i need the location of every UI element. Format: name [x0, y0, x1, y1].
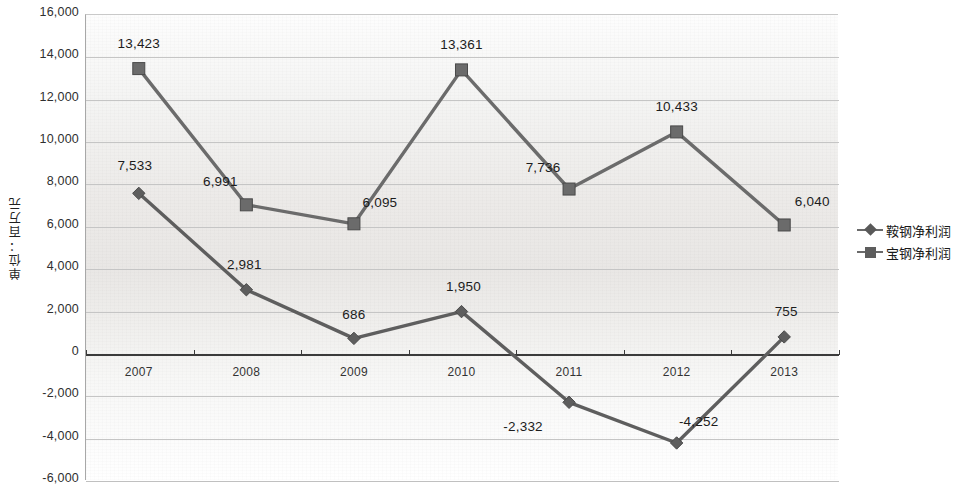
legend-label-series1: 鞍钢净利润 — [886, 221, 951, 240]
x-axis-tick-label: 2007 — [99, 365, 179, 379]
x-axis-tick — [731, 350, 732, 355]
gridline — [86, 184, 839, 185]
y-axis-tick-label: 16,000 — [7, 5, 79, 19]
y-axis-tick-label: 6,000 — [7, 217, 79, 231]
legend: 鞍钢净利润 宝钢净利润 — [857, 219, 960, 263]
x-axis-tick-label: 2008 — [206, 365, 286, 379]
y-axis-tick-label: 4,000 — [7, 259, 79, 273]
y-axis-tick-label: 0 — [7, 344, 79, 358]
square-marker-icon — [857, 245, 883, 259]
data-point-label: -4,252 — [679, 413, 718, 428]
data-point-label: 7,736 — [526, 160, 561, 175]
x-axis-tick-label: 2012 — [637, 365, 717, 379]
x-axis-tick-label: 2010 — [422, 365, 502, 379]
y-axis-tick-label: 10,000 — [7, 132, 79, 146]
gridline — [86, 100, 839, 101]
y-axis-tick-label: -4,000 — [7, 429, 79, 443]
data-point-label: -2,332 — [503, 419, 542, 434]
gridline — [86, 142, 839, 143]
y-axis-tick-label: 8,000 — [7, 174, 79, 188]
y-axis-tick-label: 12,000 — [7, 90, 79, 104]
data-point-label: 6,991 — [203, 173, 238, 188]
data-point-label: 2,981 — [227, 256, 262, 271]
gridline — [86, 57, 839, 58]
net-profit-line-chart: 单位：百万元 16,00014,00012,00010,0008,0006,00… — [0, 0, 960, 487]
data-point-label: 13,361 — [440, 36, 483, 51]
x-axis-tick-label: 2013 — [744, 365, 824, 379]
x-axis-tick-label: 2011 — [529, 365, 609, 379]
data-point-label: 10,433 — [655, 98, 698, 113]
gridline — [86, 269, 839, 270]
diamond-marker-icon — [857, 223, 883, 237]
y-axis-tick-label: -2,000 — [7, 386, 79, 400]
x-axis-tick — [409, 350, 410, 355]
legend-item-series1[interactable]: 鞍钢净利润 — [857, 219, 960, 241]
gridline — [86, 439, 839, 440]
x-axis-tick — [194, 350, 195, 355]
data-point-label: 755 — [775, 303, 798, 318]
data-point-label: 686 — [342, 307, 365, 322]
gridline — [86, 396, 839, 397]
plot-area — [85, 14, 838, 480]
y-axis-tick-label: 14,000 — [7, 47, 79, 61]
legend-label-series2: 宝钢净利润 — [886, 243, 951, 262]
legend-item-series2[interactable]: 宝钢净利润 — [857, 241, 960, 263]
x-axis-tick-label: 2009 — [314, 365, 394, 379]
data-point-label: 1,950 — [446, 278, 481, 293]
x-axis-tick — [624, 350, 625, 355]
y-axis-tick-label: -6,000 — [7, 471, 79, 485]
x-axis-tick — [301, 350, 302, 355]
plot-texture — [86, 15, 838, 480]
gridline — [86, 312, 839, 313]
data-point-label: 6,040 — [795, 193, 830, 208]
x-axis-tick — [86, 350, 87, 355]
y-axis: 16,00014,00012,00010,0008,0006,0004,0002… — [0, 0, 79, 487]
gridline — [86, 481, 839, 482]
y-axis-tick-label: 2,000 — [7, 302, 79, 316]
zero-axis-line — [86, 354, 839, 356]
x-axis-tick — [516, 350, 517, 355]
data-point-label: 7,533 — [117, 158, 152, 173]
gridline — [86, 227, 839, 228]
data-point-label: 13,423 — [118, 35, 161, 50]
x-axis-tick — [839, 350, 840, 355]
data-point-label: 6,095 — [363, 194, 398, 209]
